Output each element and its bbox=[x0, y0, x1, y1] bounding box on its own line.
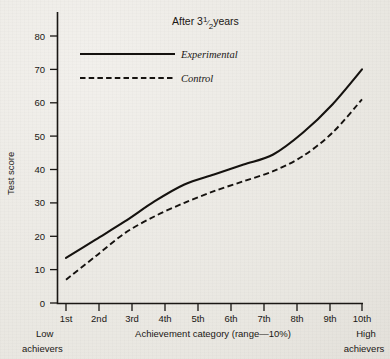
high-achievers-line1: High bbox=[356, 328, 376, 339]
x-tick-label-5th: 5th bbox=[191, 313, 204, 324]
x-axis-title: Achievement category (range—10%) bbox=[135, 328, 291, 339]
y-tick-label-80: 80 bbox=[34, 31, 45, 42]
y-axis-tick-labels: 80 70 60 50 40 30 20 10 0 bbox=[34, 31, 45, 309]
x-tick-label-9th: 9th bbox=[323, 313, 336, 324]
chart-legend: Experimental Control bbox=[80, 49, 238, 84]
x-axis-ticks bbox=[66, 304, 362, 312]
y-tick-label-0: 0 bbox=[40, 298, 45, 309]
low-achievers-line2: achievers bbox=[22, 343, 63, 354]
x-tick-label-7th: 7th bbox=[257, 313, 270, 324]
chart-title-prefix: After 3 bbox=[172, 15, 203, 27]
legend-label-experimental: Experimental bbox=[180, 49, 238, 60]
x-tick-label-1st: 1st bbox=[60, 313, 73, 324]
low-achievers-label: Low achievers bbox=[22, 328, 63, 354]
y-tick-label-10: 10 bbox=[34, 264, 45, 275]
chart-title: After 31⁄2years bbox=[172, 15, 239, 31]
high-achievers-line2: achievers bbox=[344, 343, 385, 354]
y-tick-label-50: 50 bbox=[34, 131, 45, 142]
y-tick-label-30: 30 bbox=[34, 197, 45, 208]
y-axis-title: Test score bbox=[5, 152, 16, 195]
y-tick-label-20: 20 bbox=[34, 231, 45, 242]
x-tick-label-8th: 8th bbox=[290, 313, 303, 324]
chart-title-suffix: years bbox=[213, 15, 239, 27]
x-tick-label-2nd: 2nd bbox=[91, 313, 107, 324]
x-tick-label-10th: 10th bbox=[353, 313, 372, 324]
series-line-experimental bbox=[66, 69, 362, 258]
line-chart: After 31⁄2years Experimental Control 80 bbox=[0, 0, 390, 359]
low-achievers-line1: Low bbox=[36, 328, 54, 339]
series-line-control bbox=[66, 99, 362, 279]
y-tick-label-70: 70 bbox=[34, 64, 45, 75]
x-axis-tick-labels: 1st 2nd 3rd 4th 5th 6th 7th 8th 9th 10th bbox=[60, 313, 372, 324]
y-axis-ticks bbox=[50, 36, 58, 303]
x-tick-label-3rd: 3rd bbox=[125, 313, 139, 324]
chart-container: After 31⁄2years Experimental Control 80 bbox=[0, 0, 390, 359]
y-tick-label-60: 60 bbox=[34, 97, 45, 108]
high-achievers-label: High achievers bbox=[344, 328, 385, 354]
x-tick-label-6th: 6th bbox=[224, 313, 237, 324]
x-tick-label-4th: 4th bbox=[158, 313, 171, 324]
legend-label-control: Control bbox=[181, 73, 213, 84]
y-tick-label-40: 40 bbox=[34, 164, 45, 175]
